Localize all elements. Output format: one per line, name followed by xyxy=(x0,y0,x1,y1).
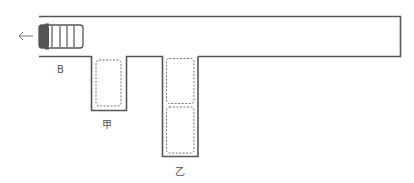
slot-jia-space xyxy=(96,60,121,106)
slot-yi-space-lower xyxy=(167,107,195,153)
road-top-edge xyxy=(39,17,401,57)
car-icon xyxy=(39,24,83,50)
label-entrance-b: B xyxy=(57,64,64,75)
label-slot-jia: 甲 xyxy=(102,116,112,131)
label-slot-yi: 乙 xyxy=(175,163,185,178)
parking-diagram xyxy=(0,0,414,183)
slot-yi-space-upper xyxy=(167,59,195,104)
left-arrow-icon xyxy=(19,32,33,40)
